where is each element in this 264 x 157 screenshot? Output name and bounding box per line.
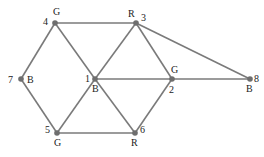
node-id-label: 5 [45, 124, 50, 135]
node-id-label: 8 [254, 73, 259, 84]
node-id-label: 4 [43, 16, 48, 27]
node-7: 7B [8, 74, 34, 85]
edge-1-5 [57, 79, 95, 133]
node-dot [52, 20, 58, 26]
node-color-label: R [131, 137, 138, 148]
node-id-label: 1 [85, 73, 90, 84]
node-dot [247, 76, 253, 82]
edge-1-3 [95, 23, 136, 79]
node-color-label: B [27, 74, 34, 85]
node-color-label: G [171, 64, 178, 75]
graph-diagram: 1B2G3R4G5G6R7B8B [0, 0, 264, 157]
node-4: 4G [43, 6, 60, 27]
node-id-label: 7 [8, 74, 13, 85]
node-color-label: G [54, 137, 61, 148]
node-id-label: 6 [140, 124, 145, 135]
edge-4-7 [21, 23, 55, 79]
node-dot [169, 76, 175, 82]
node-dot [133, 20, 139, 26]
node-dot [132, 130, 138, 136]
node-dot [54, 130, 60, 136]
edge-1-6 [95, 79, 135, 133]
node-color-label: G [53, 6, 60, 17]
edge-7-5 [21, 79, 57, 133]
node-id-label: 2 [169, 84, 174, 95]
node-id-label: 3 [141, 12, 146, 23]
edge-4-1 [55, 23, 95, 79]
node-dot [92, 76, 98, 82]
node-color-label: R [128, 8, 135, 19]
node-color-label: B [246, 83, 253, 94]
node-color-label: B [92, 83, 99, 94]
node-dot [18, 76, 24, 82]
edges [21, 23, 250, 133]
node-8: 8B [246, 73, 259, 94]
